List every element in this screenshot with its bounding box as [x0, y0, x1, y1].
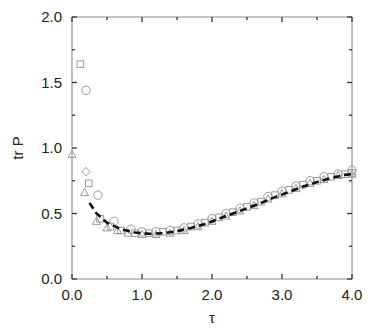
square-marker [77, 61, 84, 68]
y-tick-label: 1.0 [41, 139, 62, 156]
y-tick-label: 0.5 [41, 205, 62, 222]
theory-curve [90, 174, 353, 234]
x-tick-label: 4.0 [342, 286, 363, 303]
x-tick-label: 0.0 [62, 286, 83, 303]
y-tick-label: 1.5 [41, 74, 62, 91]
x-tick-label: 2.0 [202, 286, 223, 303]
y-tick-label: 2.0 [41, 8, 62, 25]
circle-marker [82, 86, 90, 94]
triangle-marker [81, 188, 89, 195]
chart: 0.0 0.5 1.0 1.5 2.0 0.0 1.0 2.0 3.0 4.0 … [0, 0, 375, 334]
series-theory [90, 174, 353, 234]
y-tick-label: 0.0 [41, 270, 62, 287]
diamond-marker [82, 167, 90, 175]
plot-frame [72, 17, 352, 279]
x-tick-label: 3.0 [272, 286, 293, 303]
circle-marker [94, 191, 102, 199]
data-series [68, 61, 356, 238]
x-tick-labels: 0.0 1.0 2.0 3.0 4.0 [62, 286, 363, 303]
y-axis-label: tr P [9, 136, 26, 159]
series-diamonds [82, 167, 90, 175]
y-tick-labels: 0.0 0.5 1.0 1.5 2.0 [41, 8, 62, 287]
x-axis-label: τ [209, 309, 215, 326]
series-squares [77, 61, 355, 237]
axis-ticks [72, 17, 352, 279]
square-marker [86, 180, 93, 187]
x-tick-label: 1.0 [132, 286, 153, 303]
series-circles [82, 86, 356, 236]
